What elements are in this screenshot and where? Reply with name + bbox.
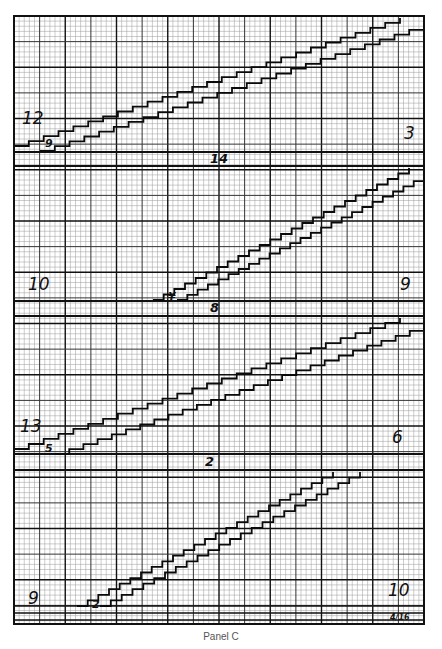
panel-4-marker: 2 <box>92 598 100 611</box>
panel-4-footnote: 4/16 <box>389 613 410 622</box>
panel-2-left-label: 10 <box>28 274 50 294</box>
separator-label: 2 <box>205 454 214 469</box>
separator-label: 14 <box>210 151 228 166</box>
panel-2-upper-trace <box>153 168 409 300</box>
panel-1-left-label: 12 <box>22 108 44 128</box>
panel-3-right-label: 6 <box>392 427 403 447</box>
panel-1-marker: 9 <box>45 137 53 150</box>
panel-1-right-label: 3 <box>404 123 415 143</box>
panel-2-marker: ¥ <box>168 290 177 303</box>
panel-4-right-label: 10 <box>388 580 410 600</box>
panel-3-left-label: 13 <box>20 416 42 436</box>
separator-label: 8 <box>210 300 219 315</box>
panel-4-left-label: 9 <box>28 588 39 608</box>
panel-3-marker: 5 <box>45 442 53 455</box>
graph-paper-figure: 1482 1239109¥136591024/16 <box>0 0 442 649</box>
panel-2-right-label: 9 <box>400 274 411 294</box>
figure-caption: Panel C <box>0 631 442 642</box>
